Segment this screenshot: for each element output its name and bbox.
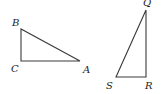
label-r: R bbox=[144, 80, 153, 91]
similar-triangles-diagram: A B C Q R S bbox=[0, 0, 162, 94]
triangle-abc: A B C bbox=[11, 17, 90, 75]
label-b: B bbox=[11, 17, 19, 28]
label-a: A bbox=[82, 64, 90, 75]
label-c: C bbox=[11, 63, 19, 74]
triangle-qrs-outline bbox=[116, 10, 146, 77]
triangle-qrs: Q R S bbox=[106, 0, 153, 91]
label-s: S bbox=[106, 80, 113, 91]
label-q: Q bbox=[143, 0, 151, 8]
triangle-abc-outline bbox=[21, 29, 80, 61]
